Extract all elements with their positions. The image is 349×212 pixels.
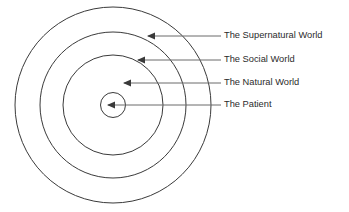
concentric-circles-diagram: The Supernatural World The Social World …	[0, 0, 349, 212]
callout-supernatural-world	[147, 33, 221, 40]
arrow-head-natural-world	[123, 80, 131, 87]
diagram-canvas: The Supernatural World The Social World …	[0, 0, 349, 212]
callout-social-world	[137, 57, 221, 64]
label-group: The Supernatural World The Social World …	[224, 30, 323, 109]
label-patient: The Patient	[224, 99, 272, 109]
arrow-head-supernatural-world	[147, 33, 155, 40]
label-social-world: The Social World	[224, 54, 295, 64]
label-natural-world: The Natural World	[224, 77, 299, 87]
label-supernatural-world: The Supernatural World	[224, 30, 323, 40]
arrow-head-patient	[107, 102, 115, 109]
callout-patient	[107, 102, 221, 109]
leader-group	[107, 33, 221, 109]
callout-natural-world	[123, 80, 221, 87]
